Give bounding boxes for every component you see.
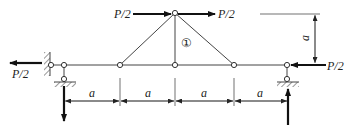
dim-label: a <box>89 86 95 100</box>
load-label: P/2 <box>217 7 235 21</box>
node-left-support <box>61 76 66 81</box>
node-right <box>284 62 289 67</box>
node-3 <box>172 62 177 67</box>
dim-label: a <box>201 86 207 100</box>
node-2 <box>117 62 122 67</box>
truss-nodes <box>48 10 289 81</box>
node-right-support <box>284 76 289 81</box>
member-label: ① <box>181 36 192 50</box>
node-apex <box>172 10 177 15</box>
node-wall <box>48 62 53 67</box>
dim-label: a <box>298 35 312 41</box>
load-label: P/2 <box>113 7 131 21</box>
load-top-left: P/2 <box>113 7 171 21</box>
load-left: P/2 <box>10 63 42 81</box>
truss-diagram: ① P/2 P/2 P/2 P/2 a a a a <box>0 0 353 132</box>
right-ground-support <box>277 65 299 87</box>
load-label: P/2 <box>11 67 29 81</box>
truss-members <box>51 13 287 65</box>
dim-label: a <box>257 86 263 100</box>
node-left <box>61 62 66 67</box>
node-4 <box>231 62 236 67</box>
dim-label: a <box>145 86 151 100</box>
load-right: P/2 <box>291 59 344 73</box>
load-top-right: P/2 <box>178 7 235 21</box>
left-ground-support <box>54 65 76 87</box>
load-label: P/2 <box>326 59 344 73</box>
vertical-dimension: a <box>260 14 320 63</box>
horizontal-dimensions: a a a a <box>65 78 287 106</box>
